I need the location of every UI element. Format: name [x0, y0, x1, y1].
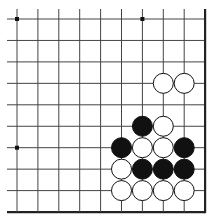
- board-grid: [7, 9, 205, 213]
- white-stone[interactable]: [174, 181, 194, 201]
- white-stone[interactable]: [112, 181, 132, 201]
- black-stone[interactable]: [132, 159, 152, 179]
- star-point-icon: [140, 17, 144, 21]
- white-stone[interactable]: [174, 73, 194, 93]
- white-stone[interactable]: [153, 138, 173, 158]
- star-point-icon: [15, 17, 19, 21]
- black-stone[interactable]: [174, 159, 194, 179]
- white-stone[interactable]: [132, 181, 152, 201]
- white-stone[interactable]: [153, 181, 173, 201]
- white-stone[interactable]: [153, 116, 173, 136]
- white-stone[interactable]: [132, 138, 152, 158]
- black-stone[interactable]: [153, 159, 173, 179]
- go-board[interactable]: [0, 0, 209, 223]
- star-point-icon: [15, 146, 19, 150]
- black-stone[interactable]: [174, 138, 194, 158]
- stones-layer[interactable]: [112, 73, 195, 200]
- white-stone[interactable]: [153, 73, 173, 93]
- black-stone[interactable]: [112, 138, 132, 158]
- white-stone[interactable]: [112, 159, 132, 179]
- black-stone[interactable]: [132, 116, 152, 136]
